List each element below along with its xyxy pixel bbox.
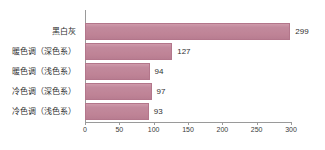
- x-tick-label-150: 150: [182, 126, 194, 133]
- x-tick-label-100: 100: [148, 126, 160, 133]
- x-tick-mark-50: [119, 122, 120, 125]
- bar-value-1: 127: [177, 43, 190, 60]
- x-tick-label-200: 200: [216, 126, 228, 133]
- bar-value-0: 299: [295, 23, 308, 40]
- x-tick-label-250: 250: [251, 126, 263, 133]
- category-axis-labels: 黑白灰 暖色调（深色系） 暖色调（浅色系） 冷色调（深色系） 冷色调（浅色系）: [0, 23, 80, 122]
- category-label-4: 冷色调（浅色系）: [12, 103, 76, 120]
- bar-0[interactable]: [85, 23, 290, 40]
- x-tick-mark-200: [222, 122, 223, 125]
- x-axis-ticks: 050100150200250300: [85, 122, 291, 142]
- category-label-1: 暖色调（深色系）: [12, 43, 76, 60]
- bar-value-3: 97: [157, 83, 166, 100]
- bar-value-4: 93: [154, 103, 163, 120]
- x-tick-label-0: 0: [83, 126, 87, 133]
- category-label-3: 冷色调（深色系）: [12, 83, 76, 100]
- bar-value-2: 94: [155, 63, 164, 80]
- bar-chart: 黑白灰 暖色调（深色系） 暖色调（浅色系） 冷色调（深色系） 冷色调（浅色系） …: [0, 0, 325, 150]
- x-tick-mark-150: [188, 122, 189, 125]
- x-tick-label-300: 300: [285, 126, 297, 133]
- bar-2[interactable]: [85, 63, 150, 80]
- x-tick-mark-250: [257, 122, 258, 125]
- bar-1[interactable]: [85, 43, 172, 60]
- x-tick-mark-100: [154, 122, 155, 125]
- bar-4[interactable]: [85, 103, 149, 120]
- bar-series: 299 127 94 97 93: [85, 23, 291, 122]
- category-label-0: 黑白灰: [52, 23, 76, 40]
- category-label-2: 暖色调（浅色系）: [12, 63, 76, 80]
- bar-3[interactable]: [85, 83, 152, 100]
- x-tick-mark-0: [85, 122, 86, 125]
- x-tick-mark-300: [291, 122, 292, 125]
- x-tick-label-50: 50: [115, 126, 123, 133]
